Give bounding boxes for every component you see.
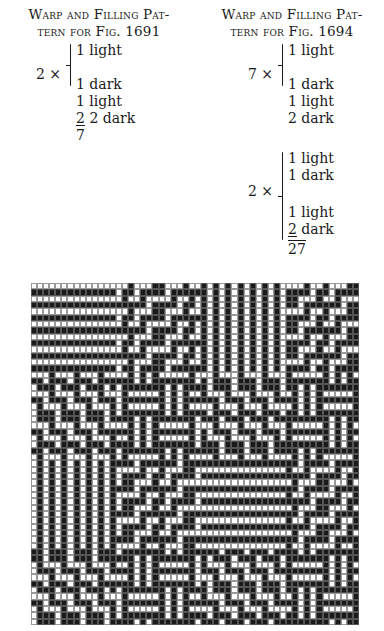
- right-line-3: 1 light: [288, 93, 334, 111]
- right-line-8-label: dark: [297, 221, 334, 237]
- left-brace-icon: [70, 44, 71, 86]
- left-line-4: 2 2 dark: [76, 110, 135, 128]
- left-pattern-column: Warp and Filling Pat- tern for Fig. 1691…: [14, 6, 184, 150]
- right-line-7: 1 light: [288, 204, 334, 222]
- left-line-4-label: 2 dark: [89, 110, 135, 126]
- left-total: 7: [76, 127, 85, 145]
- left-line-2: 1 dark: [76, 76, 122, 94]
- right-line-5: 1 light: [288, 150, 334, 168]
- right-brace-1-icon: [282, 44, 283, 86]
- left-heading: Warp and Filling Pat- tern for Fig. 1691: [14, 6, 184, 40]
- left-formula: 2 × 1 light 1 dark 1 light 2 2 dark 7: [14, 40, 184, 150]
- right-pattern-column: Warp and Filling Pat- tern for Fig. 1694…: [200, 6, 384, 270]
- left-heading-line1: Warp and Filling Pat-: [14, 6, 184, 23]
- right-line-8-num: 2: [288, 221, 297, 237]
- weave-design-grid: [31, 283, 359, 625]
- right-formula: 7 × 1 light 1 dark 1 light 2 dark 2 × 1 …: [200, 40, 384, 270]
- weave-cell: [353, 619, 359, 625]
- right-heading-line1: Warp and Filling Pat-: [200, 6, 384, 23]
- left-line-1: 1 light: [76, 42, 122, 60]
- right-brace-2-icon: [282, 152, 283, 240]
- left-line-3: 1 light: [76, 93, 122, 111]
- right-line-1: 1 light: [288, 42, 334, 60]
- right-line-6: 1 dark: [288, 167, 334, 185]
- left-heading-line2: tern for Fig. 1691: [14, 23, 184, 40]
- right-line-4: 2 dark: [288, 110, 334, 128]
- right-heading: Warp and Filling Pat- tern for Fig. 1694: [200, 6, 384, 40]
- right-multiplier-1: 7 ×: [248, 66, 273, 84]
- right-multiplier-2: 2 ×: [248, 183, 273, 201]
- right-line-8: 2 dark: [288, 221, 334, 239]
- right-total: 27: [288, 240, 306, 259]
- right-line-2: 1 dark: [288, 76, 334, 94]
- right-heading-line2: tern for Fig. 1694: [200, 23, 384, 40]
- left-multiplier: 2 ×: [36, 66, 61, 84]
- left-total-num: 2: [76, 110, 85, 126]
